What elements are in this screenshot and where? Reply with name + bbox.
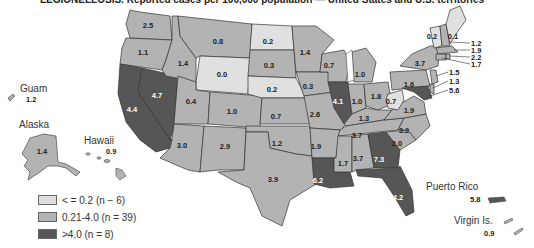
alaska-shape[interactable]: [22, 134, 80, 180]
label-ME: 0.1: [448, 32, 458, 41]
puerto-rico-value: 5.8: [470, 195, 480, 204]
label-OK: 1.2: [272, 139, 282, 148]
legend-item-low: < = 0.2 (n − 6): [38, 192, 136, 208]
label-DE: 1.3: [449, 77, 459, 86]
state-DE[interactable]: [430, 84, 434, 94]
label-IL: 4.1: [333, 97, 343, 106]
label-AZ: 3.0: [177, 141, 187, 150]
legend-label-low: < = 0.2 (n − 6): [62, 195, 125, 206]
label-IA: 0.3: [303, 82, 313, 91]
label-WV: 0.7: [386, 97, 396, 106]
legend-label-high: >4.0 (n = 8): [62, 229, 114, 240]
alaska-value: 1.4: [37, 147, 48, 156]
label-UT: 0.4: [186, 97, 197, 106]
label-CT: 1.7: [471, 60, 481, 69]
legend-label-mid: 0.21-4.0 (n = 39): [62, 212, 136, 223]
virgin-islands-shape[interactable]: [504, 218, 523, 235]
guam-name: Guam: [20, 83, 47, 94]
label-MD: 5.6: [449, 86, 459, 95]
hawaii-name: Hawaii: [84, 135, 114, 146]
puerto-rico-name: Puerto Rico: [426, 181, 479, 192]
label-SD: 0.3: [264, 61, 274, 70]
legend-swatch-low: [38, 195, 57, 205]
label-TX: 3.9: [268, 175, 278, 184]
label-MO: 2.6: [310, 110, 320, 119]
label-NM: 2.9: [220, 142, 230, 151]
label-KY: 1.3: [359, 114, 369, 123]
label-MT: 0.8: [213, 37, 223, 46]
label-AR: 1.9: [311, 142, 321, 151]
label-NC: 3.2: [399, 126, 409, 135]
label-GA: 7.3: [374, 155, 384, 164]
label-SC: 2.0: [392, 139, 402, 148]
label-FL: 4.2: [393, 193, 403, 202]
label-IN: 1.0: [352, 97, 362, 106]
state-NJ[interactable]: [430, 70, 438, 84]
virgin-islands-value: 0.9: [484, 229, 494, 238]
label-WA: 2.5: [143, 21, 153, 30]
legend-swatch-mid: [38, 212, 57, 222]
label-AL: 3.7: [353, 154, 363, 163]
label-WY: 0.0: [217, 70, 227, 79]
label-MI: 1.0: [355, 70, 365, 79]
state-FL[interactable]: [356, 166, 414, 216]
hawaii-shape[interactable]: [86, 153, 126, 180]
virgin-islands-name: Virgin Is.: [454, 215, 493, 226]
label-MS: 1.7: [338, 159, 348, 168]
map-legend: < = 0.2 (n − 6) 0.21-4.0 (n = 39) >4.0 (…: [38, 192, 136, 243]
legend-item-mid: 0.21-4.0 (n = 39): [38, 209, 136, 225]
guam-value: 1.2: [26, 95, 36, 104]
puerto-rico-shape[interactable]: [488, 197, 506, 203]
label-KS: 0.7: [271, 112, 281, 121]
label-VA: 1.9: [404, 106, 414, 115]
label-TN: 3.7: [352, 131, 362, 140]
label-WI: 0.7: [324, 61, 334, 70]
label-PA: 1.6: [404, 80, 414, 89]
label-ND: 0.2: [263, 37, 273, 46]
legend-swatch-high: [38, 229, 57, 239]
label-OH: 1.8: [371, 92, 381, 101]
label-NJ: 1.5: [449, 68, 459, 77]
label-NE: 0.2: [267, 85, 277, 94]
label-LA: 6.2: [313, 176, 323, 185]
label-CO: 1.0: [227, 107, 237, 116]
legend-item-high: >4.0 (n = 8): [38, 226, 136, 242]
label-CA: 4.4: [127, 105, 138, 114]
guam-shape[interactable]: [8, 94, 15, 101]
label-OR: 1.1: [138, 48, 148, 57]
label-VT: 0.2: [427, 32, 437, 41]
state-KS[interactable]: [260, 98, 310, 124]
alaska-name: Alaska: [19, 119, 49, 130]
state-RI[interactable]: [446, 54, 450, 59]
label-ID: 1.4: [178, 59, 189, 68]
label-NV: 4.7: [152, 91, 162, 100]
label-MN: 1.4: [300, 48, 311, 57]
label-NY: 3.7: [415, 59, 425, 68]
state-CT[interactable]: [436, 54, 446, 60]
hawaii-value: 0.9: [106, 147, 116, 156]
